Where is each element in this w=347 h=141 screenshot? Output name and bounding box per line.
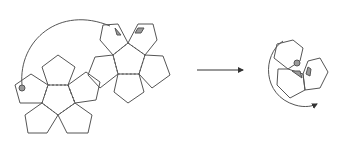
parallelogram-marker [135, 28, 144, 33]
circle-marker [19, 85, 25, 91]
fold-curve [22, 20, 110, 85]
pentagon [42, 55, 75, 85]
net-right [88, 24, 170, 103]
folded-corner [268, 40, 328, 107]
diagram-canvas [0, 0, 347, 141]
net-left [15, 55, 100, 133]
